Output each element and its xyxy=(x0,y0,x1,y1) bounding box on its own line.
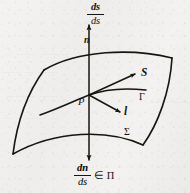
figure-canvas: ― ―― ――― ―― ― ―― ――― ―― ― ――― ― ―― ―― xyxy=(0,0,190,193)
label-vector-l: l xyxy=(124,106,127,118)
label-ds-denominator: ds xyxy=(77,177,88,188)
surface-edge-bottom xyxy=(13,134,143,154)
vector-l-arrow xyxy=(89,95,120,112)
label-surface-sigma: Σ xyxy=(124,127,130,137)
label-dn-numerator: dn xyxy=(76,163,89,174)
surface-edge-left xyxy=(13,70,44,154)
label-dn-over-ds: dn ds xyxy=(74,163,91,188)
label-dn-over-ds-in-pi: dn ds ∈ Π xyxy=(74,163,114,188)
label-ds-numerator: ds xyxy=(90,2,101,13)
label-ds-over-ds: ds ds xyxy=(87,2,104,27)
label-vector-S: S xyxy=(141,67,147,79)
label-curve-gamma: Γ xyxy=(139,92,145,102)
label-ds-denominator: ds xyxy=(90,16,101,27)
surface-edge-top xyxy=(44,52,172,70)
label-normal-vector-n: n xyxy=(84,35,90,45)
vector-S-arrow xyxy=(89,74,135,95)
label-membership-pi: ∈ Π xyxy=(94,169,114,181)
label-point-p: P xyxy=(78,97,84,108)
